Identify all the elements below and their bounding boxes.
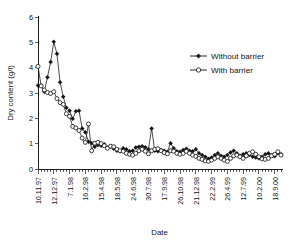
x-axis-ticks <box>38 169 281 174</box>
legend-label: Without barrier <box>211 52 264 61</box>
x-tick-label: 22.2.99 <box>209 177 217 201</box>
x-tick-label: 17.9.98 <box>161 177 169 201</box>
y-tick-label: 3 <box>29 89 33 98</box>
chart-plot: 0123456 10.11.9712.12.977.1.9816.2.9815.… <box>0 0 297 241</box>
x-tick-label: 10.2.00 <box>256 177 264 201</box>
x-tick-label: 30.7.98 <box>145 177 153 201</box>
data-point <box>77 109 81 113</box>
data-point <box>68 114 72 118</box>
data-point <box>55 52 59 56</box>
data-point <box>80 136 84 140</box>
data-point <box>225 159 229 163</box>
y-tick-label: 5 <box>29 38 33 47</box>
legend-label: With barrier <box>211 66 253 75</box>
series-with-barrier <box>36 64 283 163</box>
x-axis-title: Date <box>151 228 167 237</box>
y-tick-label: 1 <box>29 139 33 148</box>
data-point <box>146 152 150 156</box>
data-point <box>49 60 53 64</box>
y-tick-label: 2 <box>29 114 33 123</box>
x-tick-label: 26.4.99 <box>224 177 232 201</box>
data-point <box>276 150 280 154</box>
legend-marker-without-barrier <box>196 54 200 58</box>
data-point <box>165 152 169 156</box>
data-point <box>61 102 65 106</box>
data-point <box>77 128 81 132</box>
data-point <box>150 126 154 130</box>
x-tick-label: 16.2.98 <box>82 177 90 201</box>
data-point <box>86 122 90 126</box>
data-point <box>58 80 62 84</box>
chart-container: 0123456 10.11.9712.12.977.1.9816.2.9815.… <box>0 0 297 241</box>
x-tick-label: 18.9.00 <box>272 177 280 201</box>
y-tick-label: 4 <box>29 63 33 72</box>
data-point <box>39 84 43 88</box>
data-point <box>279 153 283 157</box>
x-tick-label: 15.4.98 <box>98 177 106 201</box>
data-point <box>55 97 59 101</box>
y-tick-label: 6 <box>29 13 33 22</box>
data-point <box>45 75 49 79</box>
x-tick-label: 10.11.97 <box>35 177 43 204</box>
x-tick-label: 18.5.98 <box>114 177 122 201</box>
y-axis-tick-labels: 0123456 <box>29 13 33 174</box>
x-tick-label: 24.6.98 <box>130 177 138 201</box>
legend-marker-with-barrier <box>196 68 200 72</box>
y-tick-label: 0 <box>29 165 33 174</box>
data-point <box>90 149 94 153</box>
x-tick-label: 12.12.97 <box>51 177 59 205</box>
data-point <box>61 95 65 99</box>
x-tick-label: 7.1.98 <box>67 177 75 197</box>
data-point <box>52 90 56 94</box>
x-tick-label: 21.12.98 <box>193 177 201 205</box>
chart-legend: Without barrierWith barrier <box>190 52 264 75</box>
x-tick-label: 12.7.99 <box>240 177 248 201</box>
x-tick-label: 26.10.98 <box>177 177 185 205</box>
data-point <box>83 140 87 144</box>
data-point <box>36 64 40 68</box>
x-axis-tick-labels: 10.11.9712.12.977.1.9816.2.9815.4.9818.5… <box>35 177 280 205</box>
data-point <box>52 40 56 44</box>
data-point <box>169 141 173 145</box>
y-axis-title: Dry content (g/l) <box>6 65 15 121</box>
